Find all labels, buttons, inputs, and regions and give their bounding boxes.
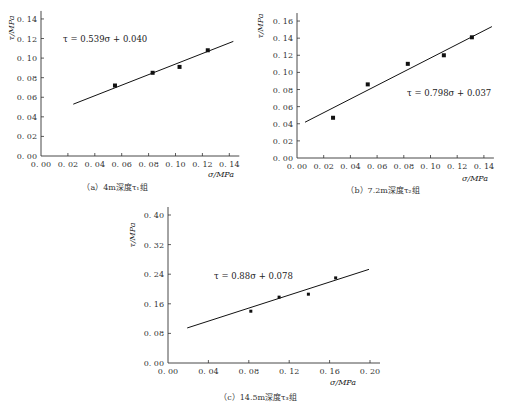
data-point <box>178 65 182 69</box>
data-point <box>206 48 210 52</box>
data-point <box>366 82 370 86</box>
y-tick-label: 0. 08 <box>273 86 293 95</box>
y-axis-label: τ/MPa <box>7 15 16 40</box>
chart-a: 0. 000. 020. 040. 060. 080. 100. 120. 14… <box>7 11 239 192</box>
y-tick-label: 0. 12 <box>17 35 37 44</box>
x-axis-label: σ/MPa <box>330 378 356 387</box>
data-point <box>331 116 335 120</box>
y-tick-label: 0. 14 <box>273 34 293 43</box>
x-tick-label: 0. 10 <box>165 160 185 169</box>
data-point <box>113 84 117 88</box>
x-tick-label: 0. 14 <box>474 162 494 171</box>
y-tick-label: 0. 10 <box>17 54 37 63</box>
data-point <box>249 310 252 313</box>
y-tick-label: 0. 02 <box>17 132 37 141</box>
x-tick-label: 0. 12 <box>192 160 212 169</box>
fit-equation: τ = 0.88σ + 0.078 <box>214 271 293 281</box>
y-tick-label: 0. 08 <box>17 74 37 83</box>
x-tick-label: 0. 00 <box>287 162 307 171</box>
x-tick-label: 0. 14 <box>219 160 239 169</box>
fit-equation: τ = 0.539σ + 0.040 <box>63 34 147 44</box>
y-tick-label: 0. 14 <box>17 15 37 24</box>
x-tick-label: 0. 04 <box>85 160 105 169</box>
data-point <box>278 296 281 299</box>
figure-canvas: 0. 000. 020. 040. 060. 080. 100. 120. 14… <box>0 0 512 407</box>
x-tick-label: 0. 04 <box>340 162 360 171</box>
y-tick-label: 0. 16 <box>144 300 164 309</box>
data-point <box>442 53 446 57</box>
y-axis-label: τ/MPa <box>256 13 265 38</box>
x-axis-label: σ/MPa <box>208 170 234 179</box>
fit-line <box>305 27 492 123</box>
y-tick-label: 0. 04 <box>17 113 37 122</box>
y-tick-label: 0. 24 <box>144 270 164 279</box>
data-point <box>406 62 410 66</box>
y-tick-label: 0. 06 <box>273 103 293 112</box>
fit-equation: τ = 0.798σ + 0.037 <box>407 88 491 98</box>
x-tick-label: 0. 00 <box>158 367 178 376</box>
y-tick-label: 0. 02 <box>273 137 293 146</box>
y-tick-label: 0. 00 <box>273 154 293 163</box>
x-tick-label: 0. 16 <box>319 367 339 376</box>
chart-b: 0. 000. 020. 040. 060. 080. 100. 120. 14… <box>256 13 494 195</box>
x-tick-label: 0. 06 <box>367 162 387 171</box>
x-tick-label: 0. 08 <box>394 162 414 171</box>
y-tick-label: 0. 40 <box>144 211 164 220</box>
chart-c: 0. 000. 040. 080. 120. 160. 200. 000. 08… <box>128 207 380 402</box>
x-tick-label: 0. 06 <box>112 160 132 169</box>
y-tick-label: 0. 04 <box>273 120 293 129</box>
x-tick-label: 0. 12 <box>447 162 467 171</box>
chart-caption: （b）7.2m深度τ₂组 <box>346 185 419 195</box>
y-tick-label: 0. 32 <box>144 241 164 250</box>
y-tick-label: 0. 10 <box>273 68 293 77</box>
data-point <box>151 71 155 75</box>
chart-caption: （c）14.5m深度τ₃组 <box>219 392 297 402</box>
x-tick-label: 0. 00 <box>31 160 51 169</box>
chart-caption: （a）4m深度τ₁组 <box>82 182 147 192</box>
x-tick-label: 0. 10 <box>420 162 440 171</box>
x-axis-label: σ/MPa <box>462 174 488 183</box>
x-tick-label: 0. 08 <box>138 160 158 169</box>
x-tick-label: 0. 20 <box>360 367 380 376</box>
data-point <box>470 35 474 39</box>
data-point <box>334 276 337 279</box>
x-tick-label: 0. 02 <box>58 160 78 169</box>
x-tick-label: 0. 04 <box>198 367 218 376</box>
y-tick-label: 0. 16 <box>273 17 293 26</box>
y-axis-label: τ/MPa <box>128 222 137 247</box>
y-tick-label: 0. 08 <box>144 329 164 338</box>
x-tick-label: 0. 08 <box>239 367 259 376</box>
y-tick-label: 0. 06 <box>17 93 37 102</box>
y-tick-label: 0. 12 <box>273 51 293 60</box>
y-tick-label: 0. 00 <box>144 359 164 368</box>
x-tick-label: 0. 02 <box>314 162 334 171</box>
data-point <box>307 293 310 296</box>
y-tick-label: 0. 00 <box>17 152 37 161</box>
x-tick-label: 0. 12 <box>279 367 299 376</box>
